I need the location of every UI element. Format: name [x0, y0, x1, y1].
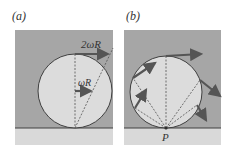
rolling-wheel-diagram: (a) 2ωR ωR (b) P: [0, 0, 229, 146]
panel-a-top-velocity-label: 2ωR: [81, 38, 101, 50]
panel-b-contact-point-label: P: [161, 131, 169, 143]
panel-a-label: (a): [12, 9, 26, 23]
panel-b-contact-point: [164, 126, 167, 129]
panel-b: (b) P: [124, 9, 221, 145]
panel-b-ground: [124, 128, 221, 145]
panel-a-ground: [15, 128, 113, 145]
panel-a-center-velocity-label: ωR: [78, 77, 91, 88]
panel-b-label: (b): [126, 9, 140, 23]
panel-a: (a) 2ωR ωR: [12, 9, 113, 145]
